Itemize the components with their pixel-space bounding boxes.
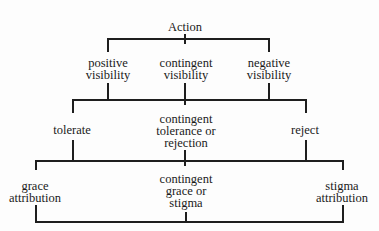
connector: [35, 205, 37, 222]
connector: [342, 160, 344, 170]
node-text: stigma: [160, 197, 213, 209]
node-negative-visibility: negative visibility: [247, 57, 291, 81]
connector: [72, 99, 74, 113]
node-contingent-visibility: contingent visibility: [160, 57, 213, 81]
node-action: Action: [168, 21, 202, 33]
connector: [342, 205, 344, 222]
connector: [305, 140, 307, 160]
node-text: rejection: [156, 137, 215, 149]
node-contingent-tolerance: contingent tolerance or rejection: [156, 113, 215, 149]
node-text: visibility: [160, 69, 213, 81]
node-text: visibility: [86, 69, 130, 81]
bracket-bottom: [35, 221, 344, 223]
node-text: tolerate: [53, 124, 90, 136]
node-text: attribution: [316, 192, 368, 204]
connector: [268, 83, 270, 99]
node-tolerate: tolerate: [53, 124, 90, 136]
node-positive-visibility: positive visibility: [86, 57, 130, 81]
bracket-level3: [35, 160, 344, 162]
node-action-label: Action: [168, 21, 202, 33]
node-text: visibility: [247, 69, 291, 81]
node-text: reject: [291, 124, 319, 136]
connector: [184, 150, 186, 166]
node-reject: reject: [291, 124, 319, 136]
connector: [184, 83, 186, 105]
node-contingent-grace: contingent grace or stigma: [160, 173, 213, 209]
node-grace-attribution: grace attribution: [9, 180, 61, 204]
diagram-canvas: Action positive visibility contingent vi…: [0, 0, 379, 231]
node-stigma-attribution: stigma attribution: [316, 180, 368, 204]
connector: [107, 38, 109, 52]
node-text: attribution: [9, 192, 61, 204]
bracket-level1: [107, 38, 269, 40]
connector: [184, 38, 186, 44]
bracket-level2: [72, 99, 306, 101]
connector: [35, 160, 37, 170]
connector: [72, 140, 74, 160]
connector: [305, 99, 307, 113]
connector: [107, 83, 109, 99]
connector: [268, 38, 270, 52]
